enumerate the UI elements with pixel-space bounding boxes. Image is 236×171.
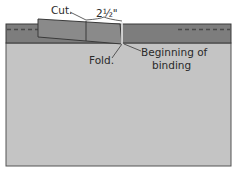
fold-label: Fold.	[89, 54, 114, 66]
binding-diagram: Cut. 2½" Fold. Beginning of binding	[0, 0, 236, 171]
beginning-label-line1: Beginning of	[141, 46, 208, 58]
beginning-label-line2: binding	[152, 59, 191, 71]
quilt-fabric	[6, 43, 231, 166]
cut-label: Cut.	[51, 4, 72, 16]
measurement-label: 2½"	[96, 7, 118, 19]
